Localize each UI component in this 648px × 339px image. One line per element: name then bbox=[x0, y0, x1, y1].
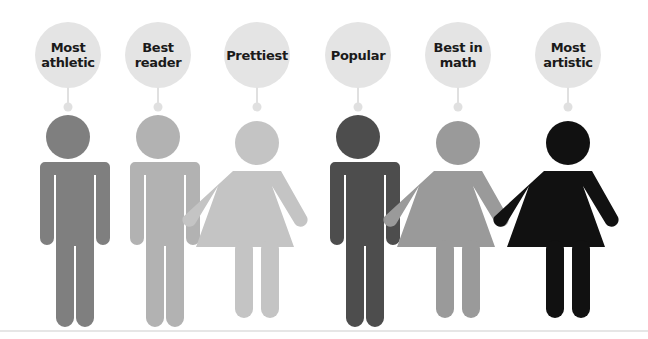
label-text: Best reader bbox=[135, 40, 182, 70]
label-text: Most artistic bbox=[543, 40, 593, 70]
female-figure-icon bbox=[383, 121, 508, 318]
connector-dot bbox=[64, 103, 73, 112]
connector-dot bbox=[564, 103, 573, 112]
label-text: Most athletic bbox=[41, 40, 95, 70]
label-bubble-popular: Popular bbox=[325, 22, 391, 88]
label-bubble-best-reader: Best reader bbox=[125, 22, 191, 88]
label-text: Popular bbox=[331, 48, 386, 63]
label-bubble-most-athletic: Most athletic bbox=[35, 22, 101, 88]
label-bubble-most-artistic: Most artistic bbox=[535, 22, 601, 88]
figures-diagram: Most athletic Best reader Prettiest Popu… bbox=[0, 0, 648, 339]
connector-dot bbox=[354, 103, 363, 112]
baseline-divider bbox=[0, 330, 648, 332]
label-text: Best in math bbox=[434, 40, 483, 70]
label-text: Prettiest bbox=[226, 48, 288, 63]
female-figure-icon bbox=[182, 121, 307, 318]
connector-dot bbox=[454, 103, 463, 112]
female-figure-icon bbox=[493, 121, 618, 318]
connector-dot bbox=[253, 103, 262, 112]
label-bubble-prettiest: Prettiest bbox=[224, 22, 290, 88]
male-figure-icon bbox=[31, 115, 110, 327]
label-bubble-best-in-math: Best in math bbox=[425, 22, 491, 88]
connector-dot bbox=[154, 103, 163, 112]
